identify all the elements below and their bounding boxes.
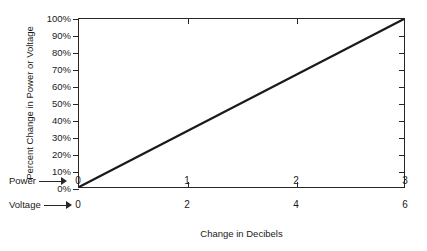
plot-area: 0%10%20%30%40%50%60%70%80%90%100% bbox=[78, 18, 405, 188]
y-tick-label: 90% bbox=[52, 31, 71, 41]
y-tick-label: 40% bbox=[52, 116, 71, 126]
voltage-tick-label: 6 bbox=[402, 198, 408, 212]
y-tick-label: 30% bbox=[52, 133, 71, 143]
voltage-tick-label: 2 bbox=[184, 198, 190, 212]
power-scale-tick-labels: 0123 bbox=[0, 174, 327, 188]
power-tick-label: 1 bbox=[184, 174, 190, 188]
y-tick-label: 60% bbox=[52, 82, 71, 92]
y-tick-label: 70% bbox=[52, 65, 71, 75]
power-tick-label: 0 bbox=[75, 174, 81, 188]
y-tick-mark bbox=[73, 189, 79, 190]
x-axis-title: Change in Decibels bbox=[78, 228, 405, 240]
y-tick-label: 50% bbox=[52, 99, 71, 109]
voltage-tick-label: 0 bbox=[75, 198, 81, 212]
voltage-tick-label: 4 bbox=[293, 198, 299, 212]
y-tick-label: 80% bbox=[52, 48, 71, 58]
voltage-scale-tick-labels: 0246 bbox=[0, 198, 327, 212]
y-axis-title: Percent Change in Power or Voltage bbox=[22, 18, 38, 188]
data-series-line bbox=[79, 19, 404, 187]
y-tick-label: 20% bbox=[52, 150, 71, 160]
power-tick-label: 2 bbox=[293, 174, 299, 188]
chart-figure: Percent Change in Power or Voltage 0%10%… bbox=[0, 0, 427, 251]
power-tick-label: 3 bbox=[402, 174, 408, 188]
y-tick-label: 100% bbox=[47, 14, 71, 24]
